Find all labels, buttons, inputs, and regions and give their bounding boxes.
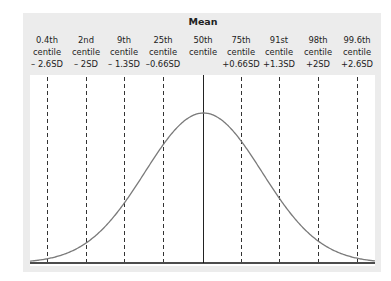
normal-curve [30, 113, 375, 261]
bell-curve-chart [0, 0, 391, 281]
